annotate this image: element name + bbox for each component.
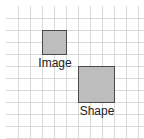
image-object[interactable]: [42, 30, 67, 55]
image-label: Image: [34, 56, 76, 70]
shape-label: Shape: [74, 104, 120, 118]
shape-object[interactable]: [78, 66, 115, 103]
